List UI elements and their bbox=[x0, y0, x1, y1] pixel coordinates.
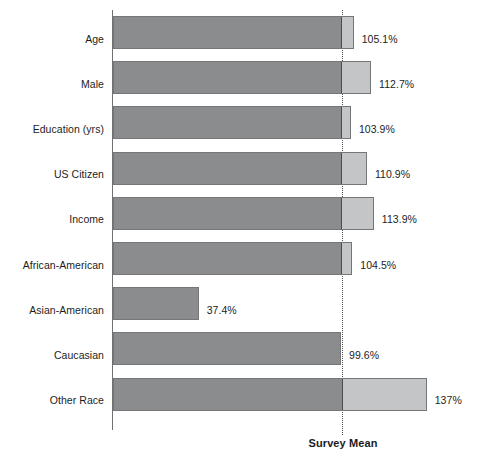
category-label: Income bbox=[0, 213, 104, 225]
category-label: Other Race bbox=[0, 394, 104, 406]
bar-segment-above-mean bbox=[342, 379, 426, 410]
bar-row: Asian-American37.4% bbox=[0, 287, 478, 332]
bar bbox=[113, 152, 367, 185]
bar-segment-below-mean bbox=[114, 153, 341, 184]
bar-row: Other Race137% bbox=[0, 378, 478, 423]
bar-segment-below-mean bbox=[114, 107, 341, 138]
survey-mean-label: Survey Mean bbox=[262, 437, 424, 449]
value-label: 105.1% bbox=[362, 33, 398, 45]
category-label: US Citizen bbox=[0, 168, 104, 180]
bar-segment-above-mean bbox=[341, 17, 353, 48]
category-label: Asian-American bbox=[0, 304, 104, 316]
category-label: Education (yrs) bbox=[0, 123, 104, 135]
value-label: 110.9% bbox=[375, 168, 410, 180]
bar-rows: Age105.1%Male112.7%Education (yrs)103.9%… bbox=[0, 16, 478, 423]
category-label: Caucasian bbox=[0, 349, 104, 361]
bar-segment-above-mean bbox=[341, 62, 370, 93]
bar-segment-below-mean bbox=[114, 198, 341, 229]
bar-segment-below-mean bbox=[114, 17, 341, 48]
value-label: 112.7% bbox=[379, 78, 414, 90]
bar-row: Income113.9% bbox=[0, 197, 478, 242]
bar bbox=[113, 197, 374, 230]
bar-segment-above-mean bbox=[341, 107, 350, 138]
category-label: Male bbox=[0, 78, 104, 90]
bar bbox=[113, 61, 371, 94]
value-label: 113.9% bbox=[382, 213, 417, 225]
bar bbox=[113, 242, 352, 275]
bar-row: Male112.7% bbox=[0, 61, 478, 106]
value-label: 137% bbox=[435, 394, 462, 406]
bar-segment-below-mean bbox=[114, 333, 340, 364]
category-label: African-American bbox=[0, 259, 104, 271]
bar-segment-above-mean bbox=[341, 243, 351, 274]
bar-segment-below-mean bbox=[114, 379, 342, 410]
value-label: 103.9% bbox=[359, 123, 395, 135]
bar-segment-below-mean bbox=[114, 288, 198, 319]
bar bbox=[113, 287, 199, 320]
bar-chart: Age105.1%Male112.7%Education (yrs)103.9%… bbox=[0, 0, 478, 468]
category-label: Age bbox=[0, 33, 104, 45]
bar-row: Age105.1% bbox=[0, 16, 478, 61]
bar-segment-above-mean bbox=[341, 153, 366, 184]
bar-segment-above-mean bbox=[341, 198, 373, 229]
bar bbox=[113, 378, 427, 411]
bar bbox=[113, 16, 354, 49]
bar-row: African-American104.5% bbox=[0, 242, 478, 287]
bar-segment-below-mean bbox=[114, 62, 341, 93]
bar bbox=[113, 332, 341, 365]
bar-row: US Citizen110.9% bbox=[0, 152, 478, 197]
bar-row: Caucasian99.6% bbox=[0, 332, 478, 377]
bar-row: Education (yrs)103.9% bbox=[0, 106, 478, 151]
value-label: 99.6% bbox=[349, 349, 379, 361]
bar-segment-below-mean bbox=[114, 243, 341, 274]
value-label: 37.4% bbox=[207, 304, 237, 316]
bar bbox=[113, 106, 351, 139]
value-label: 104.5% bbox=[360, 259, 396, 271]
